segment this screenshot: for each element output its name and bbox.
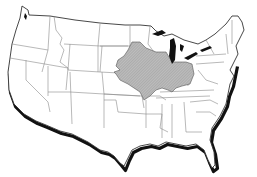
us-map: [0, 0, 257, 177]
us-outline: [8, 6, 244, 168]
